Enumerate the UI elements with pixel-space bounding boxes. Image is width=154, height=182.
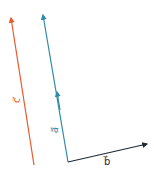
vector-c-line <box>11 18 34 165</box>
vector-c-label: c⃗ <box>10 96 22 104</box>
vector-a: a⃗ <box>43 15 68 162</box>
vector-b: b⃗ <box>68 144 147 167</box>
vector-diagram: c⃗ a⃗ b⃗ <box>0 0 154 182</box>
vector-c: c⃗ <box>10 18 34 165</box>
vector-b-label: b⃗ <box>103 155 111 167</box>
vector-a-line <box>43 15 68 162</box>
vector-a-label: a⃗ <box>48 126 60 134</box>
